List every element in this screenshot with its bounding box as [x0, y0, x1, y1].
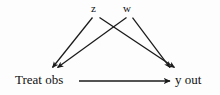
edge-z-to-treat: [53, 18, 93, 68]
node-label-y-out: y out: [175, 73, 201, 86]
causal-diagram-figure: z w Treat obs y out: [0, 0, 220, 95]
node-label-z: z: [91, 3, 96, 14]
edge-w-to-treat: [58, 18, 127, 68]
node-label-treat-obs: Treat obs: [15, 73, 63, 86]
edge-z-to-yout: [100, 18, 175, 68]
node-label-w: w: [123, 3, 131, 14]
